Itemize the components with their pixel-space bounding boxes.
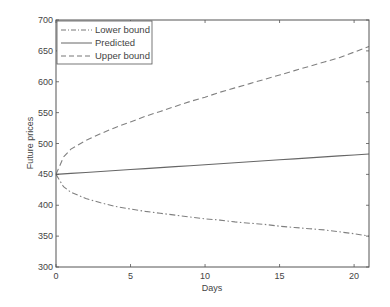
y-tick-label: 300: [38, 262, 53, 272]
series-predicted: [56, 154, 369, 174]
y-tick-label: 650: [38, 46, 53, 56]
legend-predicted-label: Predicted: [95, 37, 135, 48]
y-tick-label: 500: [38, 139, 53, 149]
series-upper-bound: [56, 47, 369, 175]
y-tick-label: 400: [38, 200, 53, 210]
x-tick-label: 5: [128, 271, 133, 281]
y-tick-label: 550: [38, 108, 53, 118]
line-chart: 300350400450500550600650700 05101520 Day…: [0, 0, 390, 307]
x-tick-label: 10: [200, 271, 210, 281]
legend: Lower bound Predicted Upper bound: [57, 21, 152, 64]
x-tick-label: 20: [349, 271, 359, 281]
x-tick-label: 15: [275, 271, 285, 281]
plot-lines: [56, 47, 369, 237]
y-tick-label: 600: [38, 77, 53, 87]
legend-upper-bound-label: Upper bound: [95, 50, 150, 61]
y-axis-label: Future prices: [25, 116, 35, 169]
x-tick-label: 0: [53, 271, 58, 281]
legend-lower-bound-label: Lower bound: [95, 24, 150, 35]
y-tick-label: 700: [38, 15, 53, 25]
series-lower-bound: [56, 174, 369, 236]
y-tick-label: 350: [38, 231, 53, 241]
x-axis-label: Days: [202, 283, 223, 293]
y-tick-label: 450: [38, 169, 53, 179]
